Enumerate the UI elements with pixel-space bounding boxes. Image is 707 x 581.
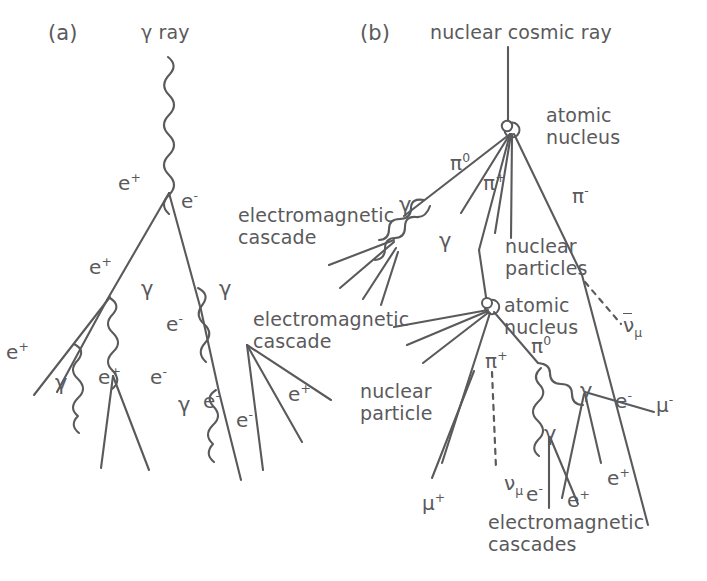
annotation-nuclear-particle: nuclearparticle xyxy=(360,381,432,425)
panel-b-primary-label: nuclear cosmic ray xyxy=(430,22,612,43)
label-e-minus-a2: e- xyxy=(166,313,183,335)
gamma-ray-incident-wave xyxy=(164,57,174,214)
label-gamma-a3: γ xyxy=(55,372,68,396)
label-e-minus-a5: e- xyxy=(236,409,253,431)
label-gamma-b2: γ xyxy=(439,230,452,254)
label-e-plus-b2: e+ xyxy=(567,489,590,511)
label-gamma-b3: γ xyxy=(580,380,593,404)
annotation-em-cascade-2: electromagneticcascade xyxy=(253,309,409,353)
label-mu-minus: μ- xyxy=(656,394,673,416)
em-cascade-2-ray-2 xyxy=(585,394,601,463)
atomic-nucleus-2-inner xyxy=(482,298,492,308)
label-nu-mu: νμ xyxy=(504,472,523,494)
atomic-nucleus-1-inner xyxy=(502,121,512,131)
e-minus-track-4 xyxy=(219,392,241,480)
e-minus-track-2 xyxy=(201,310,219,392)
label-pi-zero-b2: π0 xyxy=(531,335,551,357)
label-gamma-b4: γ xyxy=(544,423,557,447)
label-e-plus-a5: e+ xyxy=(288,383,311,405)
nuclear-particle-track-3 xyxy=(511,134,512,238)
pi-plus-track-2 xyxy=(442,313,490,463)
label-e-plus-a2: e+ xyxy=(89,256,112,278)
e-minus-track-3 xyxy=(113,376,149,470)
panel-a-tag: (a) xyxy=(48,22,78,46)
annotation-atomic-nucleus-2: atomicnucleus xyxy=(504,295,578,339)
mu-plus-track xyxy=(432,371,474,478)
nuclear-particle-to-nucleus-2 xyxy=(479,250,486,297)
label-pi-zero-b1: π0 xyxy=(450,152,470,174)
label-gamma-a1: γ xyxy=(141,278,154,302)
label-e-plus-b1: e+ xyxy=(607,467,630,489)
label-e-plus-a4: e+ xyxy=(98,366,121,388)
label-pi-minus-b1: π- xyxy=(572,185,589,207)
cascade-figure: .ln { stroke:#5a5a5c; stroke-width:2.1; … xyxy=(0,0,707,581)
cascade-svg: .ln { stroke:#5a5a5c; stroke-width:2.1; … xyxy=(0,0,707,581)
gamma-wave-a4 xyxy=(73,344,83,433)
annotation-nuclear-particles: nuclearparticles xyxy=(505,236,587,280)
e-plus-track-1 xyxy=(107,193,169,300)
label-e-plus-a1: e+ xyxy=(118,172,141,194)
annotation-em-cascades: electromagneticcascades xyxy=(488,512,644,556)
gamma-wave-b3 xyxy=(538,363,583,405)
label-e-plus-a3: e+ xyxy=(6,341,29,363)
annotation-em-cascade-1: electromagneticcascade xyxy=(238,205,394,249)
nu-mu-track xyxy=(492,372,496,468)
label-gamma-a2: γ xyxy=(219,278,232,302)
label-e-minus-b2: e- xyxy=(526,483,543,505)
em-cascade-2-ray-3 xyxy=(562,394,584,498)
annotation-atomic-nucleus-1: atomicnucleus xyxy=(546,105,620,149)
panel-a-primary-label: γ ray xyxy=(141,22,189,43)
label-mu-plus: μ+ xyxy=(422,492,445,514)
panel-b-tag: (b) xyxy=(360,22,390,46)
label-e-minus-b1: e- xyxy=(615,390,632,412)
e-plus-track-3 xyxy=(101,376,113,468)
label-pi-plus-b2: π+ xyxy=(485,350,508,372)
label-e-minus-a3: e- xyxy=(150,366,167,388)
label-e-minus-a1: e- xyxy=(181,190,198,212)
label-e-minus-a4: e- xyxy=(203,390,220,412)
gamma-wave-b4 xyxy=(533,368,543,456)
label-anti-nu-mu: νμ xyxy=(623,314,642,336)
label-gamma-b1: γ xyxy=(399,194,412,218)
label-gamma-a4: γ xyxy=(178,394,191,418)
label-pi-plus-b1: π+ xyxy=(483,172,506,194)
nuclear-particle-track-5 xyxy=(407,311,488,345)
